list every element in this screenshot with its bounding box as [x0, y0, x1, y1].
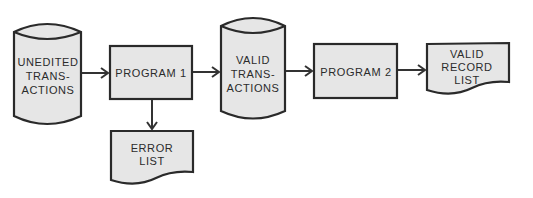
node-label-line: PROGRAM 2 [320, 66, 391, 78]
edge-program1-to-errorlist [147, 100, 157, 129]
edge-program2-to-recordlist [398, 65, 425, 75]
node-label-line: VALID [236, 54, 270, 66]
edge-unedited-to-program1 [82, 68, 108, 78]
node-program-2[interactable]: PROGRAM 2 [314, 44, 397, 98]
edge-valid-to-program2 [286, 66, 312, 76]
node-label-line: RECORD [441, 61, 492, 73]
node-valid-transactions[interactable]: VALID TRANS- ACTIONS [221, 18, 285, 119]
edge-program1-to-valid [193, 67, 219, 77]
node-label-line: ACTIONS [226, 82, 279, 94]
node-label-line: ERROR [131, 142, 174, 154]
node-label-line: LIST [454, 74, 480, 86]
node-label-line: TRANS- [26, 70, 71, 82]
node-error-list[interactable]: ERROR LIST [111, 131, 193, 184]
node-unedited-transactions[interactable]: UNEDITED TRANS- ACTIONS [14, 24, 81, 124]
node-program-1[interactable]: PROGRAM 1 [110, 46, 192, 99]
flowchart: UNEDITED TRANS- ACTIONS PROGRAM 1 ERROR … [0, 0, 533, 198]
node-label-line: UNEDITED [17, 56, 78, 68]
node-label-line: TRANS- [231, 68, 276, 80]
node-label-line: VALID [450, 48, 484, 60]
node-label-line: LIST [139, 155, 165, 167]
node-valid-record-list[interactable]: VALID RECORD LIST [427, 43, 509, 94]
node-label-line: PROGRAM 1 [115, 67, 186, 79]
node-label-line: ACTIONS [21, 84, 74, 96]
